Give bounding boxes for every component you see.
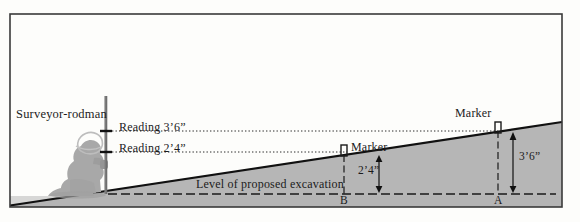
label-marker-a: Marker [455,106,492,121]
label-surveyor-rodman: Surveyor-rodman [16,107,107,122]
label-dimension-a: 3’6” [519,150,540,162]
figure-canvas: Surveyor-rodman Reading 3’6” Reading 2’4… [0,0,580,222]
label-reading-lower: Reading 2’4” [119,141,186,156]
label-dimension-b: 2’4” [358,164,379,176]
label-reading-upper: Reading 3’6” [119,120,186,135]
label-point-b: B [340,194,348,206]
label-point-a: A [494,194,503,206]
label-proposed-excavation: Level of proposed excavation [196,177,344,192]
label-marker-b: Marker [351,140,388,155]
